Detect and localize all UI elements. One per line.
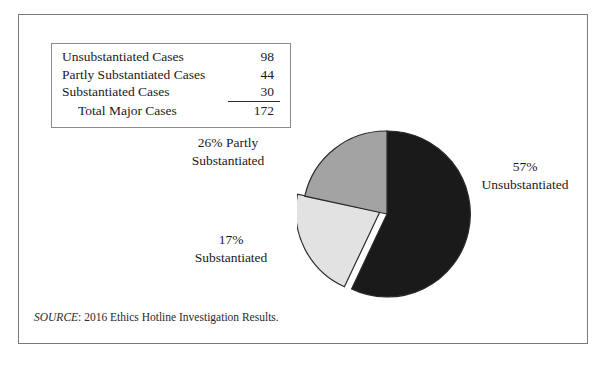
- row-value-partly-substantiated: 44: [228, 66, 280, 84]
- row-value-substantiated: 30: [228, 83, 280, 101]
- summary-table: Unsubstantiated Cases 98 Partly Substant…: [51, 43, 291, 128]
- table-row: Unsubstantiated Cases 98: [62, 48, 280, 66]
- pie-label-unsubstantiated-line1: 57%: [466, 158, 584, 176]
- pie-label-partly-line1: 26% Partly: [168, 134, 288, 152]
- source-text: : 2016 Ethics Hotline Investigation Resu…: [78, 311, 279, 323]
- row-label-total: Total Major Cases: [62, 101, 228, 119]
- table-row: Substantiated Cases 30: [62, 83, 280, 101]
- row-value-unsubstantiated: 98: [228, 48, 280, 66]
- pie-label-substantiated: 17% Substantiated: [172, 231, 290, 267]
- row-label-partly-substantiated: Partly Substantiated Cases: [62, 66, 228, 84]
- summary-table-body: Unsubstantiated Cases 98 Partly Substant…: [62, 48, 280, 119]
- pie-chart-svg: [297, 123, 481, 307]
- row-label-unsubstantiated: Unsubstantiated Cases: [62, 48, 228, 66]
- table-row-total: Total Major Cases 172: [62, 101, 280, 119]
- source-label: SOURCE: [34, 311, 78, 323]
- summary-table-grid: Unsubstantiated Cases 98 Partly Substant…: [62, 48, 280, 119]
- pie-label-partly-line2: Substantiated: [168, 152, 288, 170]
- pie-label-unsubstantiated: 57% Unsubstantiated: [466, 158, 584, 194]
- row-label-substantiated: Substantiated Cases: [62, 83, 228, 101]
- pie-label-substantiated-line2: Substantiated: [172, 249, 290, 267]
- pie-label-partly-substantiated: 26% Partly Substantiated: [168, 134, 288, 170]
- pie-label-unsubstantiated-line2: Unsubstantiated: [466, 176, 584, 194]
- table-row: Partly Substantiated Cases 44: [62, 66, 280, 84]
- source-note: SOURCE: 2016 Ethics Hotline Investigatio…: [34, 311, 279, 323]
- pie-label-substantiated-line1: 17%: [172, 231, 290, 249]
- pie-chart: [297, 123, 481, 307]
- row-value-total: 172: [228, 101, 280, 119]
